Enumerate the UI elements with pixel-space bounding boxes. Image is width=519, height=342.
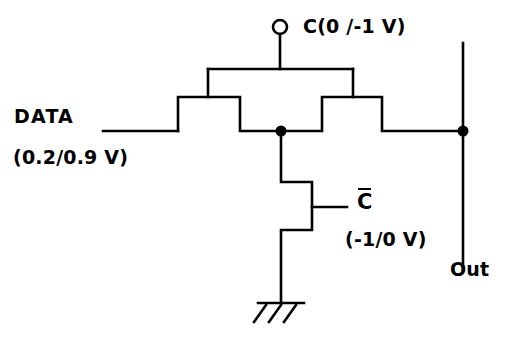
label-clock-bar-text: C <box>357 190 372 214</box>
clock-terminal-circle-icon <box>273 20 287 34</box>
ground-hatch-2 <box>269 305 281 322</box>
junction-dot-output <box>458 126 469 137</box>
transistor-pulldown-device <box>281 131 312 303</box>
transistor-right-pass-device <box>281 97 463 131</box>
label-clock-bar-signal: C <box>357 188 372 213</box>
label-clock-signal: C(0 /-1 V) <box>303 17 406 36</box>
transistor-left-pass-device <box>178 97 281 131</box>
ground-hatch-3 <box>284 305 296 322</box>
circuit-diagram: DATA (0.2/0.9 V) C(0 /-1 V) C (-1/0 V) O… <box>0 0 519 342</box>
label-data-voltage: (0.2/0.9 V) <box>13 148 128 167</box>
label-output: Out <box>450 260 489 279</box>
schematic-drawing <box>0 0 519 342</box>
label-clock-bar-voltage: (-1/0 V) <box>345 230 427 249</box>
ground-hatch-1 <box>254 305 266 322</box>
label-data: DATA <box>14 107 74 126</box>
junction-dot-internal <box>276 126 287 137</box>
